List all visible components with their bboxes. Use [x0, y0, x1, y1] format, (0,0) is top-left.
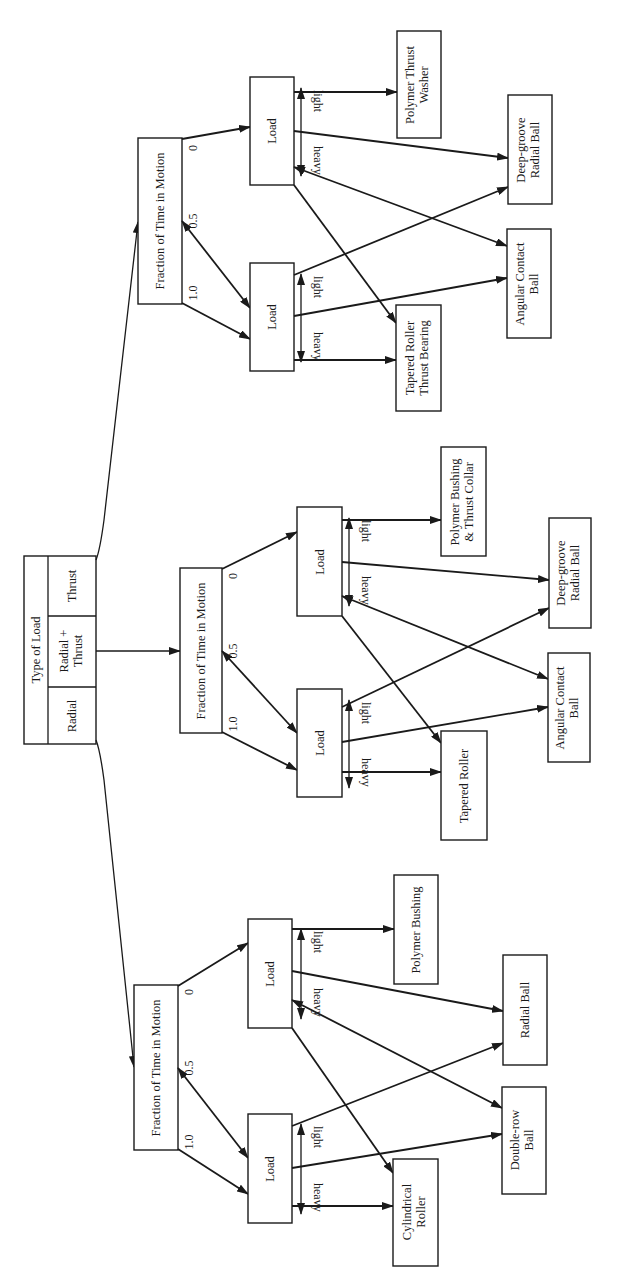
- fraction-1.0-label: 1.0: [182, 1135, 196, 1150]
- leaf-double-row-ball-2: Ball: [522, 1129, 536, 1150]
- heavy-label: heavy: [311, 988, 325, 1017]
- heavy-label: heavy: [359, 576, 373, 605]
- leaf-cylindrical-roller-2: Roller: [414, 1196, 428, 1228]
- option-thrust: Thrust: [65, 569, 79, 602]
- light-label: light: [311, 931, 325, 954]
- leaf-deep-groove-radial-ball: Deep-groove: [554, 540, 568, 606]
- leaf-polymer-bushing-thrust-collar-2: & Thrust Collar: [462, 461, 476, 541]
- bearing-selection-decision-tree: Type of Load Thrust Radial + Thrust Radi…: [0, 0, 619, 1276]
- fraction-0.5-label: 0.5: [226, 644, 240, 659]
- fraction-0-label: 0: [182, 989, 196, 995]
- fraction-node-label: Fraction of Time in Motion: [153, 152, 167, 290]
- fraction-0-label: 0: [186, 145, 200, 151]
- fraction-1.0-label: 1.0: [186, 286, 200, 301]
- leaf-angular-contact-ball-2: Ball: [567, 697, 581, 718]
- leaf-polymer-bushing: Polymer Bushing: [409, 886, 423, 974]
- edge-radial: [96, 740, 134, 1067]
- load-node-label: Load: [263, 960, 277, 986]
- heavy-label: heavy: [311, 1183, 325, 1212]
- subtree-thrust: Fraction of Time in Motion 0 0.5 1.0 Loa…: [138, 31, 552, 411]
- subtree-radial: Fraction of Time in Motion 0 0.5 1.0 Loa…: [134, 875, 547, 1266]
- leaf-polymer-thrust-washer-2: Washer: [417, 66, 431, 104]
- light-label: light: [311, 1126, 325, 1149]
- leaf-radial-ball: Radial Ball: [518, 981, 532, 1038]
- light-label: light: [311, 90, 325, 113]
- leaf-angular-contact-ball-2: Ball: [527, 273, 541, 294]
- fraction-0-label: 0: [226, 573, 240, 579]
- heavy-label: heavy: [311, 332, 325, 361]
- fraction-0.5-label: 0.5: [182, 1061, 196, 1076]
- light-label: light: [311, 276, 325, 299]
- load-node-label: Load: [263, 1155, 277, 1181]
- fraction-node-label: Fraction of Time in Motion: [149, 999, 163, 1137]
- leaf-deep-groove-radial-ball: Deep-groove: [514, 117, 528, 183]
- fraction-node-label: Fraction of Time in Motion: [194, 582, 208, 720]
- option-radial-thrust-line2: Thrust: [71, 634, 85, 667]
- light-label: light: [359, 702, 373, 725]
- leaf-angular-contact-ball: Angular Contact: [553, 666, 567, 749]
- leaf-tapered-roller: Tapered Roller: [457, 748, 471, 823]
- leaf-deep-groove-radial-ball-2: Radial Ball: [568, 544, 582, 601]
- edge-thrust: [96, 222, 138, 560]
- fraction-1.0-label: 1.0: [226, 717, 240, 732]
- subtree-radial-thrust: Fraction of Time in Motion 0 0.5 1.0 Loa…: [180, 447, 591, 840]
- leaf-cylindrical-roller: Cylindrical: [400, 1183, 414, 1240]
- load-node-label: Load: [313, 548, 327, 574]
- option-radial-thrust-line1: Radial +: [57, 630, 71, 673]
- load-node-label: Load: [265, 303, 279, 329]
- heavy-label: heavy: [311, 146, 325, 175]
- option-radial: Radial: [65, 699, 79, 732]
- type-of-load-title: Type of Load: [29, 616, 43, 684]
- leaf-polymer-thrust-washer: Polymer Thrust: [403, 46, 417, 124]
- load-node-label: Load: [313, 729, 327, 755]
- leaf-deep-groove-radial-ball-2: Radial Ball: [528, 121, 542, 178]
- fraction-0.5-label: 0.5: [186, 214, 200, 229]
- leaf-polymer-bushing-thrust-collar: Polymer Bushing: [448, 458, 462, 546]
- leaf-tapered-roller-thrust-bearing: Tapered Roller: [403, 320, 417, 395]
- leaf-double-row-ball: Double-row: [508, 1110, 522, 1170]
- type-of-load-node: Type of Load Thrust Radial + Thrust Radi…: [24, 556, 96, 744]
- load-node-label: Load: [265, 117, 279, 143]
- leaf-tapered-roller-thrust-bearing-2: Thrust Bearing: [417, 320, 431, 396]
- light-label: light: [359, 520, 373, 543]
- leaf-angular-contact-ball: Angular Contact: [513, 242, 527, 325]
